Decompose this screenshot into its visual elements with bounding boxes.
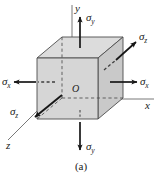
sigma-y-top-subscript: y [91, 17, 94, 26]
figure-caption: (a) [0, 160, 162, 172]
sigma-y-top-label: σy [86, 12, 95, 23]
cube-body [37, 37, 123, 119]
sigma-y-bottom-label: σy [86, 141, 95, 152]
cube-front-face [37, 58, 98, 119]
z-axis-label: z [6, 140, 10, 151]
sigma-x-left-subscript: x [7, 81, 10, 90]
sigma-z-lower-label: σz [10, 106, 18, 117]
sigma-x-left-label: σx [2, 76, 11, 87]
figure-graphics [0, 0, 162, 177]
origin-label: O [72, 84, 79, 94]
stress-element-figure: y x z O σy σy σx σx σz σz (a) [0, 0, 162, 177]
x-axis-label: x [145, 100, 150, 111]
sigma-x-right-subscript: x [145, 81, 148, 90]
sigma-z-upper-subscript: z [144, 36, 147, 45]
sigma-y-bottom-subscript: y [91, 146, 94, 155]
y-axis-label: y [75, 3, 80, 14]
sigma-z-lower-subscript: z [15, 111, 18, 120]
sigma-z-upper-label: σz [139, 31, 147, 42]
sigma-x-right-label: σx [140, 76, 149, 87]
